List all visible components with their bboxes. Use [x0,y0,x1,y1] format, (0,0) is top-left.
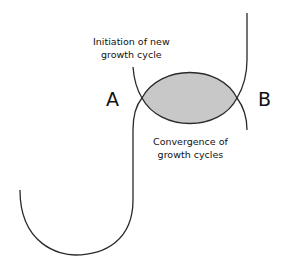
initiation-label-line1: Initiation of new [93,35,170,48]
point-a-label: A [106,88,119,110]
overlap-region [142,73,237,124]
convergence-label: Convergence of growth cycles [153,135,228,161]
convergence-label-line1: Convergence of [153,135,228,148]
initiation-label: Initiation of new growth cycle [93,35,170,61]
diagram-canvas: Initiation of new growth cycle A B Conve… [0,0,285,273]
initiation-label-line2: growth cycle [93,48,170,61]
growth-cycle-curve-1 [20,98,247,255]
point-b-label: B [258,88,271,110]
convergence-label-line2: growth cycles [153,148,228,161]
